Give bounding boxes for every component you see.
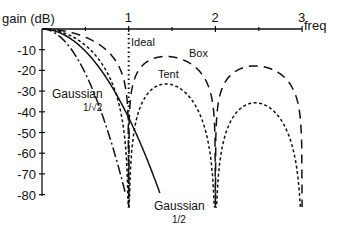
filter-response-chart: 123-10-20-30-40-50-60-70-80 gain (dB) fr… — [0, 0, 344, 236]
tent-curve — [42, 29, 302, 207]
gaussian-half-sub: 1/2 — [172, 214, 186, 225]
ideal-label: Ideal — [131, 36, 155, 48]
tick-labels: 123-10-20-30-40-50-60-70-80 — [17, 10, 305, 203]
x-tick-label: 1 — [125, 10, 132, 25]
gaussian-sqrt2-label: Gaussian — [52, 87, 103, 101]
y-axis-label: gain (dB) — [2, 11, 55, 26]
y-tick-label: -40 — [17, 105, 36, 120]
y-tick-label: -30 — [17, 84, 36, 99]
x-tick-label: 2 — [211, 10, 218, 25]
axes — [42, 29, 302, 196]
tent-label: Tent — [158, 68, 179, 80]
gaussian-half-label: Gaussian — [154, 199, 205, 213]
y-tick-label: -80 — [17, 188, 36, 203]
y-tick-label: -60 — [17, 146, 36, 161]
x-axis-label: freq — [304, 18, 326, 33]
box-label: Box — [189, 47, 208, 59]
y-tick-label: -50 — [17, 126, 36, 141]
box-curve — [42, 29, 302, 207]
curves — [42, 29, 302, 207]
gaussian-sqrt2-sub: 1/√2 — [83, 102, 103, 113]
y-tick-label: -10 — [17, 43, 36, 58]
y-tick-label: -70 — [17, 167, 36, 182]
axis-ticks — [39, 26, 302, 195]
y-tick-label: -20 — [17, 63, 36, 78]
